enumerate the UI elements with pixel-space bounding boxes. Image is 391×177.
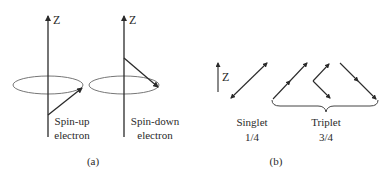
z-axis-label-spin-down: Z: [129, 14, 136, 27]
z-axis-label-spin-up: Z: [53, 14, 60, 27]
triplet-label: Triplet: [311, 116, 341, 129]
spin-diagram-figure: Z Z Spin-up electron Spin-down electron …: [0, 0, 391, 177]
singlet-label: Singlet: [236, 116, 267, 129]
singlet-probability: 1/4: [245, 131, 259, 144]
spin-up-label-line1: Spin-up: [55, 115, 90, 128]
spin-down-label-line1: Spin-down: [131, 115, 179, 128]
singlet-state-arrow: [231, 63, 267, 98]
spin-up-vector-arrow: [48, 88, 82, 115]
panel-b: [218, 63, 378, 112]
spin-down-vector-arrow: [124, 58, 158, 87]
triplet-state-up-down: [313, 64, 330, 98]
triplet-state-up-up: [273, 63, 307, 99]
spin-up-label-line2: electron: [54, 129, 89, 142]
spin-down-label-line2: electron: [137, 129, 172, 142]
triplet-state-down-down: [340, 63, 376, 99]
triplet-probability: 3/4: [319, 131, 333, 144]
panel-b-caption: (b): [270, 155, 283, 168]
triplet-brace: [272, 100, 378, 112]
panel-a-caption: (a): [87, 155, 99, 168]
z-reference-label: Z: [222, 71, 229, 84]
